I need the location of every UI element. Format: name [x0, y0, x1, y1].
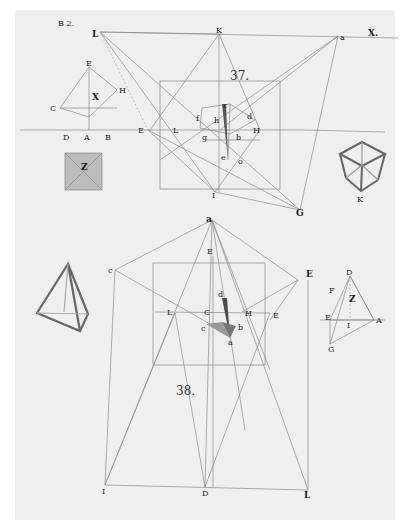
label-c-38: c [108, 266, 113, 275]
label-E-37: E [138, 126, 144, 135]
label-C: C [50, 104, 56, 113]
label-A: A [83, 133, 90, 142]
label-E-38: E [207, 247, 213, 256]
label-g: g [202, 133, 207, 142]
label-Z-tri: Z [349, 294, 356, 304]
label-L-37: L [173, 126, 179, 135]
label-d-38: d [218, 290, 223, 299]
label-H-37: H [253, 126, 260, 135]
label-I-38: I [102, 487, 105, 496]
label-H-38: H [245, 309, 252, 318]
label-E-tri: E [325, 313, 331, 322]
label-c-38b: c [201, 324, 206, 333]
label-X: X [92, 92, 99, 102]
label-B: B [105, 133, 111, 142]
label-a: a [340, 33, 345, 42]
tetrahedron-illustration [37, 264, 88, 331]
label-A-tri: A [375, 316, 382, 325]
label-H: H [119, 86, 126, 95]
label-a-38: a [206, 214, 212, 224]
geometry-plate: B 2. X. 37. 38. L K a E H X C D A B E L … [0, 0, 405, 530]
label-L-38b: L [304, 490, 311, 500]
label-b: b [236, 133, 241, 142]
label-C-38: C [204, 308, 210, 317]
plate-label: B 2. [58, 19, 74, 28]
label-f: f [196, 114, 200, 123]
label-Z: Z [81, 162, 88, 172]
label-d: d [247, 112, 252, 121]
label-cube-K: K [357, 195, 364, 204]
figure-37 [20, 32, 398, 210]
label-L-38: L [167, 308, 173, 317]
label-F-tri: F [329, 286, 335, 295]
label-a-38b: a [228, 338, 233, 347]
label-h: h [214, 116, 219, 125]
figure-38 [105, 220, 308, 490]
cube-illustration [340, 142, 385, 191]
label-I: I [212, 191, 215, 200]
label-e: e [221, 153, 226, 162]
plate-number: X. [368, 28, 378, 38]
label-D-38: D [202, 489, 208, 498]
label-E-38b: E [273, 311, 279, 320]
figure-number-37: 37. [230, 69, 249, 83]
label-E-right: E [306, 269, 313, 279]
figure-number-38: 38. [176, 384, 195, 398]
label-o: o [238, 157, 243, 166]
label-L: L [92, 29, 99, 39]
label-b-38: b [238, 323, 243, 332]
label-D-tri: D [346, 268, 352, 277]
label-E: E [86, 59, 92, 68]
label-D: D [63, 133, 69, 142]
label-I-tri: I [347, 321, 350, 330]
label-G-tri: G [328, 345, 334, 354]
label-c: c [223, 101, 228, 110]
label-K: K [216, 26, 223, 35]
label-G: G [296, 208, 304, 218]
